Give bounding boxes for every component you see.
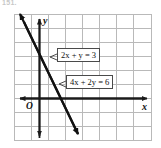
x-axis-label: x (141, 101, 147, 112)
callout-equation-2: 4x + 2y = 6 (66, 75, 113, 89)
y-axis-label: y (42, 15, 48, 26)
graph-figure: 151. (0, 0, 161, 148)
origin-label: O (26, 101, 33, 111)
callout-equation-1: 2x + y = 3 (57, 48, 100, 62)
coordinate-plane-graphic: y x O (0, 0, 161, 148)
